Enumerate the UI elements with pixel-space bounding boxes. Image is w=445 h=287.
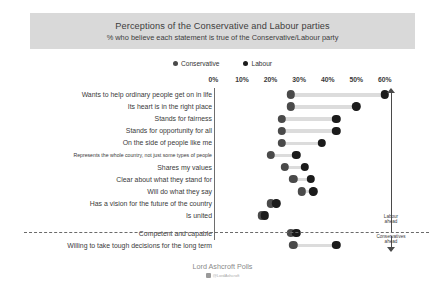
chart-row: Its heart is in the right place bbox=[0, 100, 445, 113]
x-tick-label: 20% bbox=[264, 76, 278, 83]
data-point-labour[interactable] bbox=[352, 102, 360, 110]
chart-row: Wants to help ordinary people get on in … bbox=[0, 88, 445, 101]
chart-legend: ConservativeLabour bbox=[0, 60, 445, 67]
labour-ahead-line2: ahead bbox=[361, 219, 421, 224]
data-point-labour[interactable] bbox=[306, 175, 314, 183]
chart-row: Has a vision for the future of the count… bbox=[0, 197, 445, 210]
labour-ahead-annotation: Labour ahead bbox=[361, 214, 421, 225]
row-label: On the side of people like me bbox=[123, 136, 212, 149]
legend-label: Labour bbox=[251, 60, 272, 67]
row-label: Clear about what they stand for bbox=[116, 173, 212, 186]
row-label: Its heart is in the right place bbox=[128, 100, 212, 113]
row-label: Will do what they say bbox=[147, 185, 212, 198]
x-tick-label: 30% bbox=[292, 76, 306, 83]
annotation-axis-upper bbox=[391, 92, 392, 232]
row-label: Represents the whole country, not just s… bbox=[73, 149, 212, 162]
page-title: Perceptions of the Conservative and Labo… bbox=[115, 21, 329, 31]
chart-root: Perceptions of the Conservative and Labo… bbox=[0, 0, 445, 287]
legend-item-labour[interactable]: Labour bbox=[243, 60, 272, 67]
page-subtitle: % who believe each statement is true of … bbox=[107, 33, 339, 42]
data-point-conservative[interactable] bbox=[286, 90, 294, 98]
data-point-labour[interactable] bbox=[261, 211, 269, 219]
row-label: Is united bbox=[186, 209, 212, 222]
conservatives-ahead-arrow-icon bbox=[387, 247, 395, 252]
chart-row: Clear about what they stand for bbox=[0, 173, 445, 186]
chart-title-band: Perceptions of the Conservative and Labo… bbox=[30, 13, 415, 49]
data-point-labour[interactable] bbox=[292, 229, 300, 237]
row-label: Shares my values bbox=[157, 161, 212, 174]
x-axis-tick-labels: 0%10%20%30%40%50%60% bbox=[0, 76, 445, 88]
data-point-labour[interactable] bbox=[318, 139, 326, 147]
footer-handle: @LordAshcroft bbox=[0, 273, 445, 278]
x-tick-label: 0% bbox=[209, 76, 219, 83]
footer-source: Lord Ashcroft Polls bbox=[0, 262, 445, 271]
chart-row: Represents the whole country, not just s… bbox=[0, 149, 445, 162]
row-label: Stands for fairness bbox=[155, 112, 212, 125]
row-label: Competent and capable bbox=[139, 227, 212, 240]
data-point-labour[interactable] bbox=[309, 187, 317, 195]
x-tick-label: 10% bbox=[235, 76, 249, 83]
data-point-conservative[interactable] bbox=[278, 115, 286, 123]
x-tick-label: 50% bbox=[349, 76, 363, 83]
data-point-conservative[interactable] bbox=[298, 187, 306, 195]
connector-bar bbox=[291, 105, 357, 108]
chart-row: Shares my values bbox=[0, 161, 445, 174]
chart-row: Stands for fairness bbox=[0, 112, 445, 125]
connector-bar bbox=[282, 142, 322, 145]
connector-bar bbox=[282, 129, 336, 132]
x-tick-label: 40% bbox=[321, 76, 335, 83]
connector-bar bbox=[291, 93, 385, 96]
data-point-labour[interactable] bbox=[292, 151, 300, 159]
data-point-labour[interactable] bbox=[332, 115, 340, 123]
row-label: Stands for opportunity for all bbox=[126, 124, 212, 137]
chart-row: Will do what they say bbox=[0, 185, 445, 198]
data-point-conservative[interactable] bbox=[286, 102, 294, 110]
row-label: Willing to take tough decisions for the … bbox=[67, 239, 212, 252]
legend-dot-icon bbox=[243, 61, 248, 66]
row-label: Has a vision for the future of the count… bbox=[90, 197, 212, 210]
data-point-conservative[interactable] bbox=[266, 151, 274, 159]
chart-row: Stands for opportunity for all bbox=[0, 124, 445, 137]
connector-bar bbox=[293, 244, 336, 247]
data-point-labour[interactable] bbox=[272, 199, 280, 207]
twitter-icon bbox=[206, 273, 211, 278]
data-point-conservative[interactable] bbox=[278, 127, 286, 135]
x-tick-label: 60% bbox=[378, 76, 392, 83]
data-point-labour[interactable] bbox=[332, 241, 340, 249]
data-point-conservative[interactable] bbox=[278, 139, 286, 147]
legend-dot-icon bbox=[173, 61, 178, 66]
legend-label: Conservative bbox=[181, 60, 219, 67]
chart-footer: Lord Ashcroft Polls @LordAshcroft bbox=[0, 262, 445, 278]
data-point-conservative[interactable] bbox=[281, 163, 289, 171]
data-point-conservative[interactable] bbox=[289, 175, 297, 183]
row-label: Wants to help ordinary people get on in … bbox=[82, 88, 212, 101]
data-point-labour[interactable] bbox=[301, 163, 309, 171]
section-divider bbox=[24, 232, 429, 233]
chart-row: On the side of people like me bbox=[0, 136, 445, 149]
data-point-conservative[interactable] bbox=[289, 241, 297, 249]
conservatives-ahead-annotation: Conservatives ahead bbox=[361, 234, 421, 245]
cons-ahead-line2: ahead bbox=[361, 239, 421, 244]
legend-item-conservative[interactable]: Conservative bbox=[173, 60, 219, 67]
data-point-labour[interactable] bbox=[332, 127, 340, 135]
footer-handle-text: @LordAshcroft bbox=[213, 273, 240, 278]
connector-bar bbox=[282, 117, 336, 120]
